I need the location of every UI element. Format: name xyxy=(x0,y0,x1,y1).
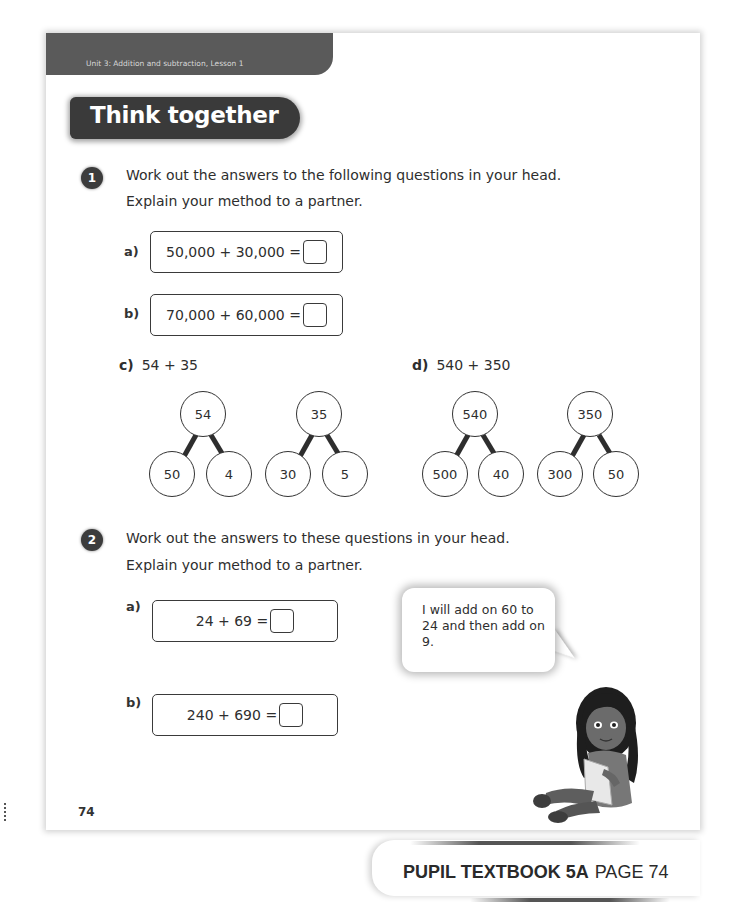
part-whole-part-5: 5 xyxy=(322,451,368,497)
footer-decorative-line-bottom xyxy=(470,898,670,902)
part-whole-whole-54: 54 xyxy=(180,391,226,437)
textbook-page-ref: PAGE 74 xyxy=(595,862,669,882)
part-whole-part-50: 50 xyxy=(149,451,195,497)
part-whole-part-40: 40 xyxy=(478,451,524,497)
part-whole-part-30: 30 xyxy=(265,451,311,497)
page-edge-mark xyxy=(0,803,6,821)
part-whole-part-300: 300 xyxy=(537,451,583,497)
textbook-page: Unit 3: Addition and subtraction, Lesson… xyxy=(46,33,700,830)
part-whole-whole-540: 540 xyxy=(452,391,498,437)
footer-decorative-line-top xyxy=(410,841,640,845)
textbook-name: PUPIL TEXTBOOK 5A xyxy=(403,862,589,882)
part-whole-whole-35: 35 xyxy=(296,391,342,437)
part-whole-part-50b: 50 xyxy=(593,451,639,497)
part-whole-part-500: 500 xyxy=(422,451,468,497)
part-whole-whole-350: 350 xyxy=(567,391,613,437)
part-whole-part-4: 4 xyxy=(206,451,252,497)
textbook-reference: PUPIL TEXTBOOK 5APAGE 74 xyxy=(403,862,668,883)
